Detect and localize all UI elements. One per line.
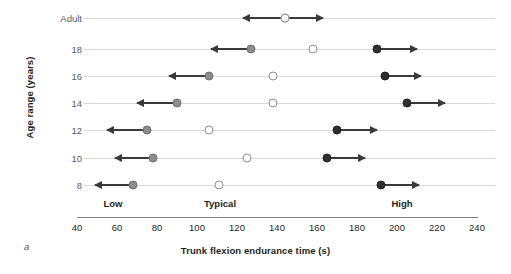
arrow-head-left: [106, 126, 114, 134]
arrow-left-12: [107, 129, 147, 131]
x-tick-200: 200: [389, 222, 405, 233]
marker-dark-12: [333, 126, 342, 135]
arrow-head-left: [210, 45, 218, 53]
panel-label: a: [24, 241, 29, 252]
band-label-low: Low: [104, 198, 123, 209]
arrow-right-10: [327, 157, 365, 159]
arrow-head-right: [316, 14, 324, 22]
arrow-head-left: [136, 99, 144, 107]
marker-open-12: [205, 126, 214, 135]
marker-gray-8: [129, 181, 138, 190]
arrow-left-18: [211, 48, 251, 50]
chart-container: Age range (years) Adult 18 16 14 12 10 8…: [0, 0, 511, 274]
marker-dark-14: [403, 99, 412, 108]
arrow-head-right: [358, 154, 366, 162]
marker-dark-18: [373, 45, 382, 54]
marker-dark-8: [377, 181, 386, 190]
x-tick-240: 240: [469, 222, 485, 233]
arrow-left-8: [95, 184, 133, 186]
x-tick-220: 220: [429, 222, 445, 233]
arrow-head-right: [370, 126, 378, 134]
band-label-typical: Typical: [204, 198, 236, 209]
arrow-right-8: [381, 184, 419, 186]
arrow-head-right: [438, 99, 446, 107]
x-axis-line: [77, 217, 478, 218]
x-tick-180: 180: [349, 222, 365, 233]
plot-area: [0, 0, 511, 205]
x-tick-160: 160: [309, 222, 325, 233]
arrow-right-18: [377, 48, 417, 50]
marker-gray-16: [205, 72, 214, 81]
x-tick-120: 120: [229, 222, 245, 233]
arrow-right-12: [337, 129, 377, 131]
x-tick-80: 80: [152, 222, 163, 233]
marker-open-8: [215, 181, 224, 190]
arrow-left-16: [169, 75, 209, 77]
marker-open-18: [309, 45, 318, 54]
marker-gray-12: [143, 126, 152, 135]
x-tick-40: 40: [72, 222, 83, 233]
arrow-left-14: [137, 102, 177, 104]
x-tick-60: 60: [112, 222, 123, 233]
band-label-high: High: [391, 198, 412, 209]
marker-gray-10: [149, 154, 158, 163]
x-tick-100: 100: [189, 222, 205, 233]
arrow-head-right: [410, 45, 418, 53]
marker-dark-10: [323, 154, 332, 163]
marker-open-10: [243, 154, 252, 163]
arrow-head-right: [414, 72, 422, 80]
arrow-head-right: [412, 181, 420, 189]
arrow-head-left: [94, 181, 102, 189]
marker-gray-14: [173, 99, 182, 108]
marker-dark-16: [381, 72, 390, 81]
marker-open-Adult: [281, 14, 290, 23]
x-axis-title: Trunk flexion endurance time (s): [0, 245, 511, 256]
arrow-left-10: [115, 157, 153, 159]
marker-open-14: [269, 99, 278, 108]
row-line-16: [84, 76, 495, 77]
row-line-8: [84, 185, 495, 186]
arrow-head-left: [168, 72, 176, 80]
arrow-right-14: [407, 102, 445, 104]
x-tick-140: 140: [269, 222, 285, 233]
row-line-18: [84, 49, 495, 50]
arrow-head-left: [242, 14, 250, 22]
arrow-head-left: [114, 154, 122, 162]
marker-gray-18: [247, 45, 256, 54]
arrow-right-16: [385, 75, 421, 77]
marker-open-16: [269, 72, 278, 81]
